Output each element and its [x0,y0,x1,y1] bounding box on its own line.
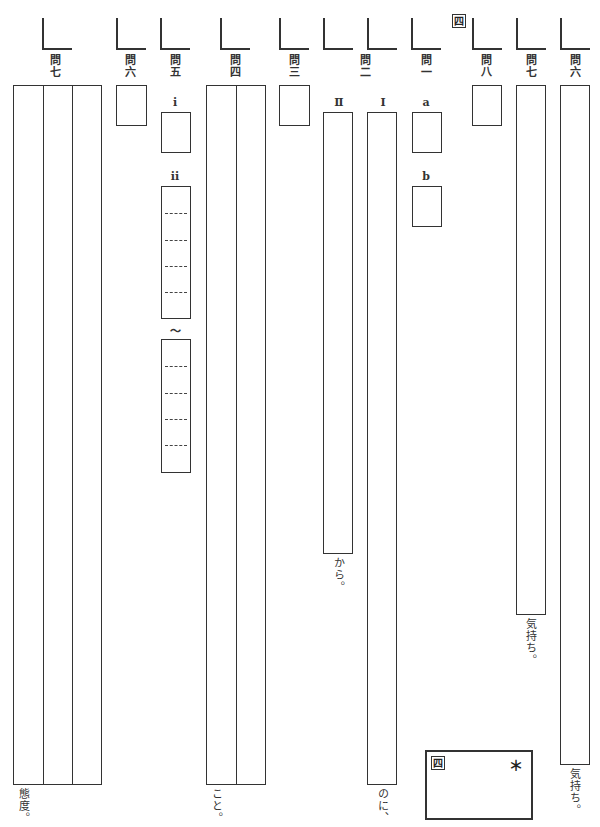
char-separator [165,393,187,394]
score-corner-mark [367,18,397,50]
question-label: 問四 [225,55,245,79]
column-divider [236,86,237,784]
part-label: ii [165,170,185,183]
answer-box-q1-a[interactable] [412,112,442,153]
answer-suffix: こと。 [209,788,223,824]
answer-box-q2-II[interactable] [323,112,353,554]
part-label: b [416,170,436,183]
answer-suffix: 気持ち。 [523,618,537,666]
score-corner-mark [220,18,250,50]
answer-box-q6-right[interactable] [560,85,590,765]
section-number-mark: 四 [452,14,466,28]
answer-box-q6-left[interactable] [116,85,147,126]
answer-suffix: 態度。 [16,788,30,824]
question-label: 問一 [416,55,436,79]
question-label: 問七 [521,55,541,79]
score-corner-mark [411,18,441,50]
column-divider [43,86,44,784]
score-corner-mark [116,18,146,50]
question-label: 問七 [45,55,65,79]
score-corner-mark [279,18,309,50]
asterisk-mark: ＊ [509,754,523,774]
answer-box-q3[interactable] [279,85,310,126]
answer-box-q5-ii-start[interactable] [161,186,191,319]
char-separator [165,213,187,214]
answer-box-q5-i[interactable] [161,112,191,153]
char-separator [165,292,187,293]
answer-box-q7-right[interactable] [516,85,546,615]
answer-box-q2-I[interactable] [367,112,397,785]
answer-suffix: のに、 [375,788,389,824]
question-label: 問八 [476,55,496,79]
question-label: 問三 [284,55,304,79]
answer-suffix: 気持ち。 [567,768,581,816]
question-label: 問二 [355,55,375,79]
answer-box-q4[interactable] [206,85,266,785]
score-corner-mark [516,18,546,50]
char-separator [165,419,187,420]
part-label: Ⅱ [329,96,349,109]
score-corner-mark [560,18,590,50]
section-score-box[interactable]: 四 ＊ [425,750,533,820]
answer-box-q8[interactable] [472,85,502,126]
question-label: 問六 [120,55,140,79]
answer-suffix: から。 [331,557,345,593]
answer-box-q7-left[interactable] [13,85,102,785]
score-corner-mark [472,18,502,50]
score-corner-mark [323,18,353,50]
range-tilde: 〜 [165,322,185,338]
char-separator [165,240,187,241]
answer-box-q1-b[interactable] [412,186,442,227]
char-separator [165,266,187,267]
part-label: a [416,96,436,109]
section-number-mark: 四 [431,756,445,770]
column-divider [72,86,73,784]
part-label: Ⅰ [373,96,393,109]
part-label: i [165,96,185,109]
char-separator [165,366,187,367]
score-corner-mark [42,18,72,50]
answer-box-q5-ii-end[interactable] [161,339,191,473]
char-separator [165,445,187,446]
question-label: 問六 [565,55,585,79]
question-label: 問五 [165,55,185,79]
score-corner-mark [160,18,190,50]
